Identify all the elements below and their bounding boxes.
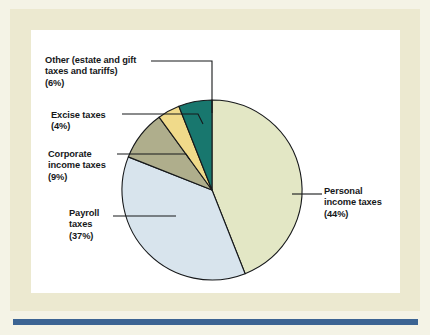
label-corporate-income-taxes: Corporate income taxes (9%) bbox=[48, 149, 106, 183]
figure-root: Other (estate and gift taxes and tariffs… bbox=[0, 0, 430, 335]
label-other-line3: (6%) bbox=[45, 78, 136, 89]
label-payroll-line3: (37%) bbox=[69, 231, 99, 242]
label-corporate-line1: Corporate bbox=[48, 149, 106, 160]
label-personal-income-taxes: Personal income taxes (44%) bbox=[324, 186, 382, 220]
label-excise-line1: Excise taxes bbox=[51, 110, 106, 121]
bottom-accent-rule bbox=[13, 319, 418, 325]
label-personal-line2: income taxes bbox=[324, 197, 382, 208]
label-corporate-line2: income taxes bbox=[48, 160, 106, 171]
label-other-line1: Other (estate and gift bbox=[45, 55, 136, 66]
label-corporate-line3: (9%) bbox=[48, 172, 106, 183]
label-other-taxes: Other (estate and gift taxes and tariffs… bbox=[45, 55, 136, 89]
label-payroll-line1: Payroll bbox=[69, 208, 99, 219]
label-excise-line2: (4%) bbox=[51, 121, 106, 132]
label-personal-line1: Personal bbox=[324, 186, 382, 197]
label-excise-taxes: Excise taxes (4%) bbox=[51, 110, 106, 133]
label-personal-line3: (44%) bbox=[324, 209, 382, 220]
label-payroll-taxes: Payroll taxes (37%) bbox=[69, 208, 99, 242]
label-payroll-line2: taxes bbox=[69, 219, 99, 230]
pie-slices-group bbox=[122, 100, 302, 280]
label-other-line2: taxes and tariffs) bbox=[45, 66, 136, 77]
